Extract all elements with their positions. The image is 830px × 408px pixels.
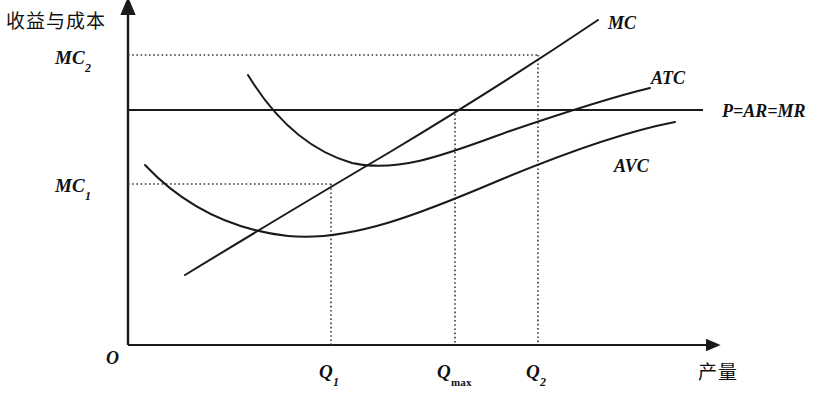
- y-tick-mc2-base: MC: [55, 47, 85, 68]
- y-tick-mc1-base: MC: [55, 175, 85, 196]
- x-tick-label-q1: Q1: [319, 362, 339, 385]
- origin-label: O: [106, 349, 119, 367]
- mc-curve-label: MC: [608, 14, 636, 32]
- y-tick-mc2-sub: 2: [85, 61, 91, 75]
- y-tick-label-mc1: MC1: [55, 176, 91, 199]
- y-tick-mc1-sub: 1: [85, 189, 91, 203]
- atc-curve: [248, 75, 650, 166]
- x-tick-label-q2: Q2: [526, 362, 546, 385]
- avc-curve-label: AVC: [614, 157, 649, 175]
- x-tick-q1-sub: 1: [333, 375, 339, 389]
- y-axis-label: 收益与成本: [6, 12, 106, 31]
- price-line-label: P=AR=MR: [722, 102, 806, 120]
- atc-curve-label: ATC: [651, 69, 685, 87]
- x-tick-label-qmax: Qmax: [437, 362, 472, 385]
- figure-canvas: 收益与成本 产量 O MC2 MC1 Q1 Qmax Q2 MC ATC AVC…: [0, 0, 830, 408]
- x-tick-qmax-base: Q: [437, 361, 451, 382]
- x-tick-q1-base: Q: [319, 361, 333, 382]
- mc-curve: [185, 20, 598, 275]
- x-tick-q2-base: Q: [526, 361, 540, 382]
- x-axis-label: 产量: [698, 363, 738, 382]
- y-tick-label-mc2: MC2: [55, 48, 91, 71]
- economics-cost-curve-diagram: [0, 0, 830, 408]
- x-tick-q2-sub: 2: [540, 375, 546, 389]
- x-tick-qmax-sub: max: [451, 376, 472, 388]
